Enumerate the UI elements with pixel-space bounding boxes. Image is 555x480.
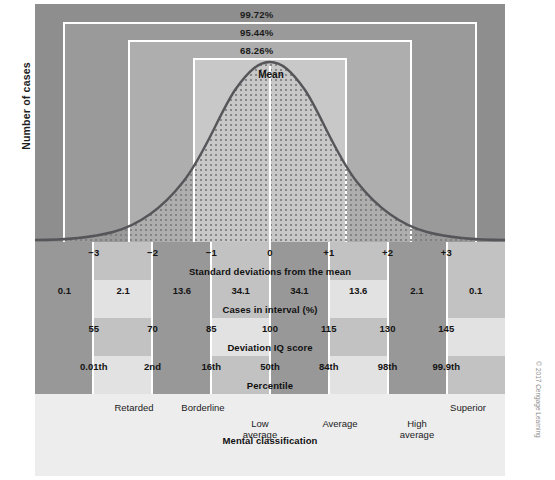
mental-classification-label: Retarded [114, 402, 153, 413]
iq-tick: 145 [438, 323, 454, 334]
percentile-tick: 98th [378, 361, 398, 372]
iq-tick: 85 [206, 323, 217, 334]
percentile-tick: 16th [201, 361, 221, 372]
mean-label: Mean [241, 69, 301, 80]
y-axis-label: Number of cases [20, 36, 32, 176]
sd-tick: −3 [88, 247, 99, 258]
row-deviation-iq: 557085100115130145 Deviation IQ score [35, 318, 505, 356]
percentile-tick: 50th [260, 361, 280, 372]
ci-cell: 2.1 [410, 285, 423, 296]
sd-tick: −2 [147, 247, 158, 258]
ci-cell: 13.6 [173, 285, 192, 296]
row-cases-in-interval: 0.12.113.634.134.113.62.10.1 Cases in in… [35, 280, 505, 318]
sd-tick: +2 [382, 247, 393, 258]
row-pc-caption: Percentile [35, 380, 505, 391]
band-label-one-sigma: 68.26% [240, 45, 273, 56]
ci-cell: 2.1 [117, 285, 130, 296]
ci-cell: 34.1 [290, 285, 309, 296]
mean-line [269, 66, 271, 242]
row-mental-classification: RetardedBorderlineLowaverageAverageHigha… [35, 394, 505, 476]
sd-tick: +3 [441, 247, 452, 258]
ci-cell: 0.1 [469, 285, 482, 296]
band-label-three-sigma: 99.72% [240, 9, 273, 20]
mental-classification-label: Superior [450, 402, 486, 413]
band-label-two-sigma: 95.44% [240, 27, 273, 38]
sd-tick: −1 [206, 247, 217, 258]
percentile-tick: 84th [319, 361, 339, 372]
ci-cell: 34.1 [231, 285, 250, 296]
normal-curve-figure: Mean 99.72% 95.44% 68.26% −3−2−10+1+2+3 … [35, 4, 505, 476]
mental-classification-label: Borderline [181, 402, 224, 413]
row-sd-caption: Standard deviations from the mean [35, 266, 505, 277]
sd-tick: 0 [267, 247, 272, 258]
percentile-tick: 2nd [144, 361, 161, 372]
iq-tick: 100 [262, 323, 278, 334]
ci-cell: 0.1 [58, 285, 71, 296]
row-percentile: 0.01th2nd16th50th84th98th99.9th Percenti… [35, 356, 505, 394]
ci-cell: 13.6 [349, 285, 368, 296]
iq-tick: 130 [380, 323, 396, 334]
iq-tick: 70 [147, 323, 158, 334]
sd-tick: +1 [323, 247, 334, 258]
percentile-tick: 99.9th [433, 361, 460, 372]
iq-tick: 55 [88, 323, 99, 334]
row-iq-caption: Deviation IQ score [35, 342, 505, 353]
row-mc-caption: Mental classification [35, 435, 505, 446]
copyright-notice: © 2017 Cengage Learning [535, 352, 542, 448]
curve-panel: Mean 99.72% 95.44% 68.26% [35, 4, 505, 242]
percentile-tick: 0.01th [80, 361, 107, 372]
row-standard-deviations: −3−2−10+1+2+3 Standard deviations from t… [35, 242, 505, 280]
row-ci-caption: Cases in interval (%) [35, 304, 505, 315]
iq-tick: 115 [321, 323, 336, 334]
mental-classification-label: Average [322, 418, 357, 429]
